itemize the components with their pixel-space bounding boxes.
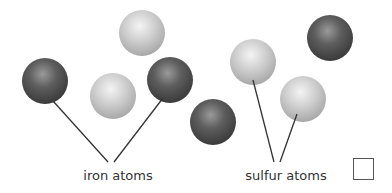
iron-atom [190,99,236,145]
sulfur-leader-line [253,80,274,162]
atoms-diagram: iron atoms sulfur atoms [0,0,392,193]
iron-atom [22,58,68,104]
sulfur-atoms-label: sulfur atoms [245,168,327,183]
iron-atom [147,57,193,103]
iron-atom [307,15,353,61]
sulfur-atom [90,73,136,119]
iron-atoms-label: iron atoms [83,168,153,183]
sulfur-atom [280,76,326,122]
answer-checkbox[interactable] [353,158,374,180]
sulfur-leader-line [280,114,297,162]
sulfur-atom [119,10,165,56]
sulfur-atom [230,39,276,85]
